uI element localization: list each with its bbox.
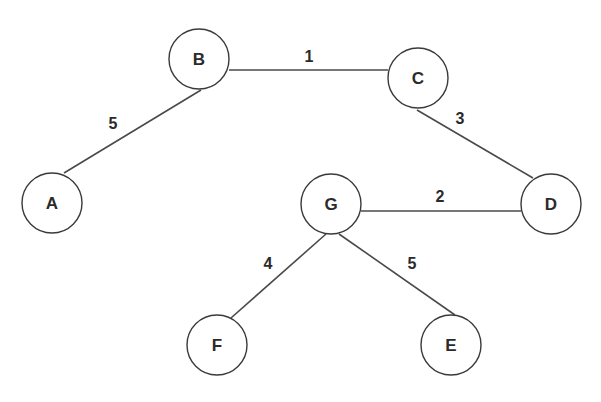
edge-weight-label: 5: [408, 255, 417, 272]
node-e: E: [421, 315, 481, 375]
node-label: E: [445, 336, 456, 355]
graph-diagram: 513245 ABCDGFE: [0, 0, 601, 402]
edge-b-c: 1: [229, 48, 388, 71]
node-d: D: [521, 174, 581, 234]
node-a: A: [22, 173, 82, 233]
node-label: D: [545, 195, 557, 214]
node-label: F: [212, 336, 222, 355]
node-b: B: [169, 29, 229, 89]
edges-layer: 513245: [64, 48, 533, 319]
nodes-layer: ABCDGFE: [22, 29, 581, 375]
edge-g-f: 4: [231, 234, 326, 318]
edge-weight-label: 4: [264, 255, 273, 272]
edge-g-d: 2: [361, 188, 521, 212]
node-c: C: [388, 48, 448, 108]
edge-weight-label: 1: [305, 48, 314, 65]
node-label: C: [412, 69, 424, 88]
edge-g-e: 5: [339, 234, 455, 315]
node-label: G: [324, 195, 337, 214]
edge-line: [339, 234, 455, 315]
edge-weight-label: 5: [109, 115, 118, 132]
node-label: A: [46, 194, 58, 213]
node-label: B: [193, 50, 205, 69]
edge-line: [417, 110, 533, 178]
node-f: F: [187, 315, 247, 375]
edge-weight-label: 3: [456, 110, 465, 127]
edge-line: [231, 234, 326, 318]
edge-line: [64, 90, 201, 173]
edge-c-d: 3: [417, 110, 533, 179]
edge-b-a: 5: [64, 90, 201, 173]
edge-weight-label: 2: [436, 188, 445, 205]
node-g: G: [301, 174, 361, 234]
